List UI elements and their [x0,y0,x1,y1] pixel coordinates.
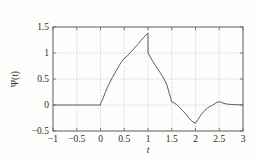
y-tick-label: −0.5 [32,126,49,136]
x-tick-label: 2.5 [213,134,225,144]
y-axis-label: Ψ(t) [10,71,21,87]
x-tick-label: 0.5 [118,134,130,144]
x-tick-label: 1.5 [166,134,178,144]
x-tick-label: 0 [98,134,103,144]
chart-plot: −1−0.500.511.522.53 −0.500.511.5 t Ψ(t) [0,0,259,160]
figure-container: −1−0.500.511.522.53 −0.500.511.5 t Ψ(t) [0,0,259,160]
y-tick-labels: −0.500.511.5 [32,22,49,136]
x-tick-label: 2 [193,134,198,144]
y-tick-label: 0 [44,100,49,110]
x-tick-label: 1 [146,134,151,144]
x-tick-label: −1 [48,134,58,144]
x-tick-labels: −1−0.500.511.522.53 [48,134,246,144]
y-tick-label: 1.5 [37,22,49,32]
x-tick-label: −0.5 [68,134,85,144]
y-tick-label: 0.5 [37,74,49,84]
x-tick-label: 3 [241,134,246,144]
x-axis-label: t [147,145,150,155]
y-tick-label: 1 [44,48,49,58]
